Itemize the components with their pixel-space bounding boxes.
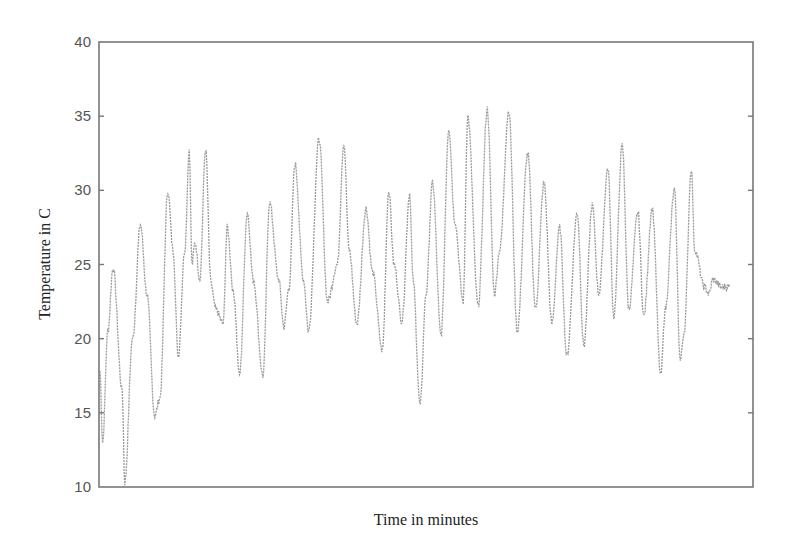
y-tick-label: 10 <box>74 478 91 495</box>
temperature-line-chart: 10152025303540 Time in minutes Temperatu… <box>0 0 789 555</box>
y-axis-title: Temperature in C <box>36 208 54 320</box>
chart-background <box>0 0 789 555</box>
y-tick-label: 20 <box>74 330 91 347</box>
y-tick-label: 40 <box>74 33 91 50</box>
y-tick-label: 15 <box>74 404 91 421</box>
y-tick-label: 25 <box>74 256 91 273</box>
x-axis-title: Time in minutes <box>374 511 478 528</box>
y-tick-label: 35 <box>74 107 91 124</box>
y-tick-label: 30 <box>74 181 91 198</box>
